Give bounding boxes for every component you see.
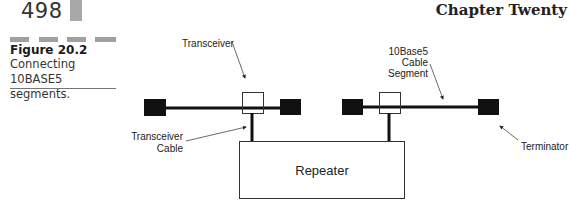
transceiver-cable-label-1: Transceiver xyxy=(131,131,184,142)
segment-label-2: Cable xyxy=(402,57,429,68)
transceiver-label: Transceiver xyxy=(182,38,235,49)
cable-segment-right xyxy=(342,93,499,143)
transceiver-cable-label-2: Cable xyxy=(157,143,184,154)
transceiver-cable-arrow xyxy=(186,127,246,141)
transceiver-box-right xyxy=(380,93,401,114)
segment-arrow xyxy=(430,64,443,99)
terminator-right-2 xyxy=(478,99,499,115)
terminator-left-1 xyxy=(144,99,166,116)
network-diagram: Repeater Transceiver Transceiver Cable 1… xyxy=(0,0,569,203)
repeater-label: Repeater xyxy=(295,163,349,178)
segment-label-1: 10Base5 xyxy=(389,46,429,57)
transceiver-box-left xyxy=(243,93,264,114)
terminator-label: Terminator xyxy=(521,141,569,152)
transceiver-arrow xyxy=(232,42,245,78)
segment-label-3: Segment xyxy=(388,68,428,79)
terminator-right-1 xyxy=(280,99,301,115)
terminator-left-2 xyxy=(342,99,363,115)
terminator-arrow xyxy=(500,126,518,140)
